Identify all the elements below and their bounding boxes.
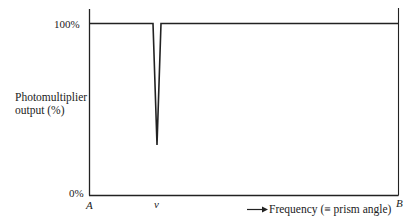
y-tick-0: 0%	[69, 187, 84, 199]
output-trace	[90, 24, 399, 146]
x-label-v: v	[154, 198, 159, 210]
x-label-a: A	[86, 199, 93, 211]
frequency-arrow-head	[262, 207, 268, 213]
y-tick-100: 100%	[54, 18, 80, 30]
y-axis-label-line1: Photomultiplier	[15, 91, 87, 103]
x-label-b: B	[396, 197, 403, 209]
x-axis-label: Frequency (≡ prism angle)	[269, 203, 391, 215]
y-axis-label-line2: output (%)	[15, 104, 65, 116]
